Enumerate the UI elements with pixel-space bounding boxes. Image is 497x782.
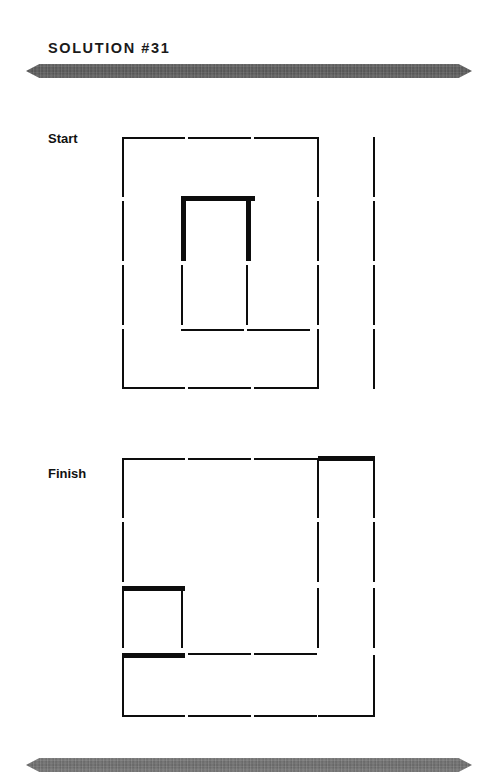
match-stick — [122, 588, 124, 648]
match-stick — [122, 458, 185, 460]
match-stick — [373, 458, 375, 518]
page-title: SOLUTION #31 — [48, 40, 170, 56]
match-stick-highlighted — [181, 201, 186, 261]
match-stick-highlighted — [318, 456, 375, 461]
match-stick — [122, 201, 124, 261]
bottom-rule-bar — [26, 757, 472, 773]
match-stick — [373, 137, 375, 197]
match-stick-highlighted — [122, 586, 185, 591]
match-stick — [246, 265, 248, 325]
match-stick-highlighted — [122, 653, 185, 658]
match-stick — [317, 329, 319, 389]
match-stick — [188, 458, 251, 460]
match-stick — [317, 458, 319, 518]
match-stick — [254, 387, 317, 389]
match-stick-highlighted — [181, 196, 255, 201]
top-ornamental-rule — [26, 63, 472, 79]
match-stick — [188, 137, 251, 139]
bottom-ornamental-rule — [26, 757, 472, 773]
match-stick — [254, 137, 317, 139]
match-stick — [317, 137, 319, 197]
match-stick — [254, 653, 317, 655]
match-stick — [181, 329, 244, 331]
match-stick — [188, 387, 251, 389]
match-stick — [122, 522, 124, 582]
match-stick — [122, 265, 124, 325]
match-stick — [373, 588, 375, 648]
match-stick — [181, 265, 183, 325]
match-stick — [373, 655, 375, 715]
match-stick — [122, 715, 185, 717]
match-stick — [317, 522, 319, 582]
match-stick — [122, 655, 124, 715]
panel-label-finish: Finish — [48, 466, 86, 481]
match-stick — [373, 265, 375, 325]
match-stick — [373, 201, 375, 261]
match-stick — [317, 265, 319, 325]
match-stick — [122, 137, 124, 197]
match-stick — [122, 137, 185, 139]
match-stick — [181, 588, 183, 648]
match-stick — [317, 588, 319, 648]
match-stick — [122, 387, 185, 389]
match-stick — [254, 458, 317, 460]
match-stick — [317, 201, 319, 261]
match-stick — [318, 715, 375, 717]
match-stick — [254, 715, 317, 717]
top-rule-bar — [26, 63, 472, 79]
match-stick — [122, 329, 124, 389]
match-stick — [122, 458, 124, 518]
match-stick — [247, 329, 310, 331]
panel-label-start: Start — [48, 131, 78, 146]
match-stick — [373, 329, 375, 389]
match-stick-highlighted — [246, 201, 251, 261]
match-stick — [188, 715, 251, 717]
match-stick — [188, 653, 251, 655]
match-stick — [373, 522, 375, 582]
